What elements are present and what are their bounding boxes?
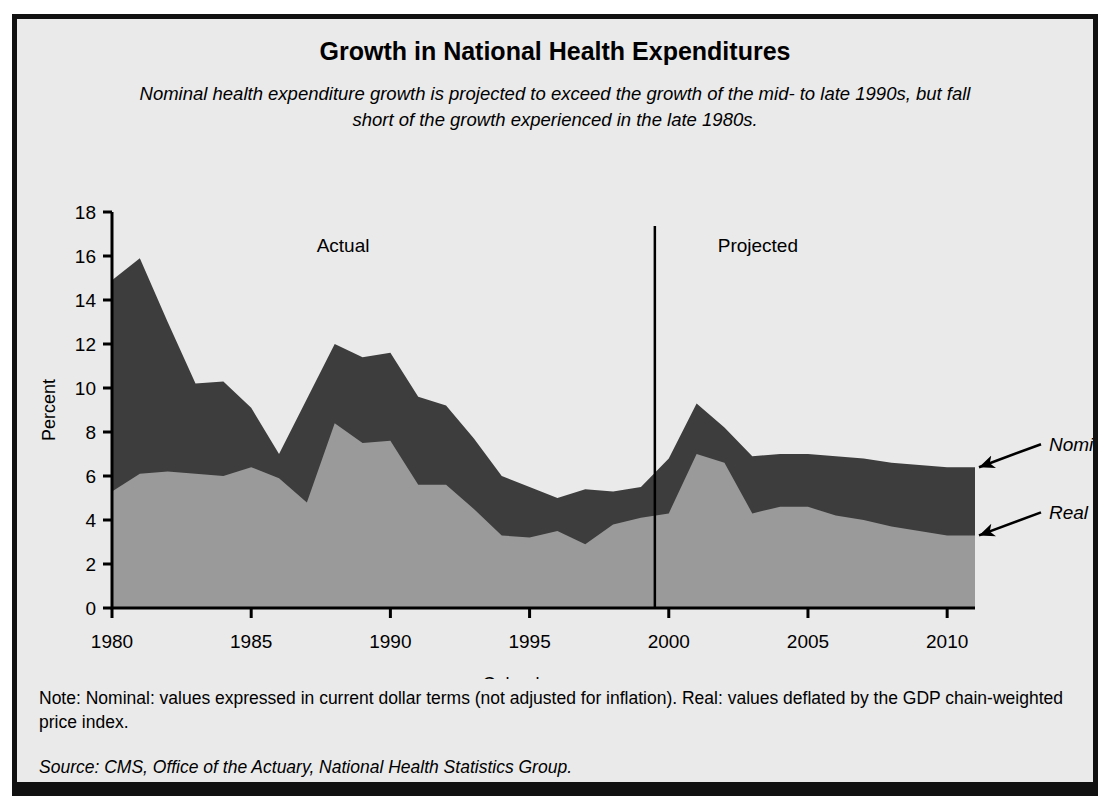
y-axis-ticks: 024681012141618: [75, 202, 112, 619]
svg-text:1980: 1980: [91, 631, 133, 652]
svg-text:0: 0: [85, 598, 96, 619]
chart-source: Source: CMS, Office of the Actuary, Nati…: [39, 757, 1069, 778]
svg-text:2010: 2010: [926, 631, 968, 652]
svg-text:6: 6: [85, 466, 96, 487]
area-chart: 0246810121416181980198519901995200020052…: [17, 19, 1093, 679]
plot-area: 0246810121416181980198519901995200020052…: [17, 19, 1093, 791]
x-axis-ticks: 1980198519901995200020052010: [91, 608, 968, 652]
y-axis-label: Percent: [39, 379, 59, 441]
svg-text:14: 14: [75, 290, 97, 311]
svg-text:2005: 2005: [787, 631, 829, 652]
chart-note: Note: Nominal: values expressed in curre…: [39, 687, 1069, 735]
svg-text:2000: 2000: [648, 631, 690, 652]
x-axis-label: Calendar years: [482, 674, 604, 679]
svg-text:8: 8: [85, 422, 96, 443]
figure-frame: Growth in National Health Expenditures N…: [12, 14, 1098, 796]
svg-text:Real: Real: [1049, 502, 1089, 523]
svg-text:1985: 1985: [230, 631, 272, 652]
svg-text:18: 18: [75, 202, 96, 223]
svg-text:1990: 1990: [369, 631, 411, 652]
svg-text:16: 16: [75, 246, 96, 267]
svg-text:4: 4: [85, 510, 96, 531]
svg-text:12: 12: [75, 334, 96, 355]
figure-inner: Growth in National Health Expenditures N…: [17, 19, 1093, 791]
projected-region-label: Projected: [718, 235, 798, 256]
real-series-callout: Real: [979, 502, 1089, 535]
svg-text:2: 2: [85, 554, 96, 575]
nominal-series-callout: Nominal: [979, 434, 1093, 467]
svg-text:1995: 1995: [508, 631, 550, 652]
svg-text:Nominal: Nominal: [1049, 434, 1093, 455]
svg-text:10: 10: [75, 378, 96, 399]
footer-rule: [17, 782, 1093, 791]
actual-region-label: Actual: [317, 235, 370, 256]
